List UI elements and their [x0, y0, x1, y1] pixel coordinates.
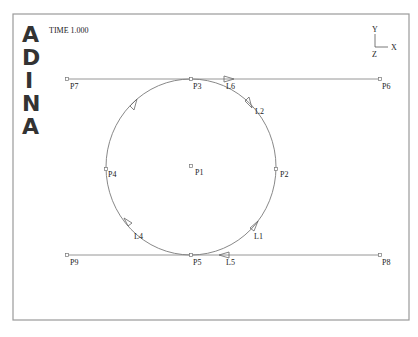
line-l6-label: L6	[226, 82, 235, 91]
time-label: TIME 1.000	[49, 26, 89, 35]
point-p2-label: P2	[280, 170, 288, 179]
logo-letter-n: N	[22, 91, 40, 116]
point-p9-marker[interactable]	[66, 254, 69, 257]
line-l4-label: L4	[134, 232, 143, 241]
line-l5-label: L5	[226, 258, 235, 267]
logo-letter-a2: A	[22, 114, 39, 139]
point-p8-label: P8	[382, 258, 390, 267]
point-p8-marker[interactable]	[379, 254, 382, 257]
line-l1-label: L1	[254, 232, 263, 241]
point-p5-marker[interactable]	[190, 254, 193, 257]
point-p7-marker[interactable]	[66, 78, 69, 81]
point-p3-marker[interactable]	[190, 78, 193, 81]
logo-letter-i: I	[25, 68, 33, 93]
logo-letter-d: D	[22, 45, 40, 70]
axis-triad-icon	[375, 34, 388, 47]
point-p1-label: P1	[195, 168, 203, 177]
triad-x-label: X	[391, 43, 397, 52]
point-p6-marker[interactable]	[379, 78, 382, 81]
logo-letter-a: A	[22, 22, 39, 47]
point-p3-label: P3	[193, 82, 201, 91]
point-p7-label: P7	[70, 82, 78, 91]
plot-frame	[13, 14, 409, 320]
point-p6-label: P6	[382, 82, 390, 91]
arrow-l3-icon	[130, 99, 137, 110]
adina-geometry-canvas: A D I N A TIME 1.000 Y X Z P1 P2	[0, 0, 418, 337]
triad-z-label: Z	[372, 50, 377, 59]
point-p5-label: P5	[193, 258, 201, 267]
point-p9-label: P9	[70, 258, 78, 267]
point-p1-marker[interactable]	[190, 165, 193, 168]
triad-y-label: Y	[372, 25, 378, 34]
adina-logo: A D I N A	[22, 22, 40, 139]
line-l2-label: L2	[255, 107, 264, 116]
point-p4-label: P4	[108, 170, 116, 179]
point-p2-marker[interactable]	[275, 168, 278, 171]
